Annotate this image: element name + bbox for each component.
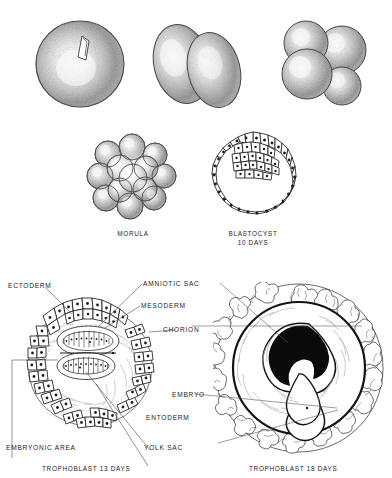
caption-trophoblast-13: TROPHOBLAST 13 DAYS [42,464,130,473]
stage-four-cell [272,12,378,118]
stage-blastocyst [206,128,300,222]
caption-trophoblast-18: TROPHOBLAST 18 DAYS [249,464,337,473]
label-ectoderm: ECTODERM [8,281,52,290]
caption-morula: MORULA [86,229,180,238]
caption-blastocyst-days: 10 DAYS [206,238,300,247]
stage-two-cell [142,12,252,118]
caption-blastocyst: BLASTOCYST [206,229,300,238]
stage-fertilized-ovum [26,12,134,118]
figure-canvas: MORULA [0,0,392,478]
stage-morula [86,128,180,222]
label-embryonic-area: EMBRYONIC AREA [6,443,76,452]
leader-lines-18-days [130,282,392,462]
